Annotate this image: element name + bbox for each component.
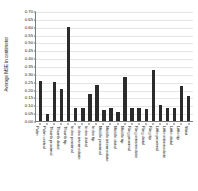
x-axis-tick-mark (174, 123, 175, 125)
bar-slot (150, 12, 157, 121)
x-axis-tick-mark (145, 123, 146, 125)
plot-area (35, 12, 193, 122)
x-axis-tick-mark (167, 123, 168, 125)
x-axis-tick-mark (46, 123, 47, 125)
bar-slot (93, 12, 100, 121)
x-axis-tick-mark (117, 123, 118, 125)
bar-slot (58, 12, 65, 121)
x-axis-tick-mark (39, 123, 40, 125)
x-axis-tick-label: Little proximal (155, 126, 159, 151)
bar[interactable] (116, 112, 119, 121)
bar-slot (185, 12, 192, 121)
bar[interactable] (137, 108, 140, 121)
bar-chart-figure: Average MSE in centimeter 0.700.650.600.… (0, 0, 198, 191)
x-axis-tick-label: Ring intermediate (134, 126, 138, 158)
bar[interactable] (81, 108, 84, 121)
bar-slot (37, 12, 44, 121)
x-axis-tick-label: Little tip (176, 126, 180, 140)
bar-slot (65, 12, 72, 121)
bar[interactable] (152, 70, 155, 121)
bar[interactable] (187, 96, 190, 121)
bar-slot (157, 12, 164, 121)
bar[interactable] (60, 89, 63, 121)
x-axis-tick-label: Index tip (91, 126, 95, 141)
x-axis-tick-label: Ring tip (148, 126, 152, 140)
x-axis-tick-mark (181, 123, 182, 125)
x-axis-tick-label: Ring distal (141, 126, 145, 145)
bar[interactable] (166, 108, 169, 121)
bar-slot (44, 12, 51, 121)
bar-slot (79, 12, 86, 121)
y-axis-tick-label: 0.60 (25, 26, 33, 30)
bar-slot (129, 12, 136, 121)
x-tick-slot: Wrist (185, 123, 192, 191)
x-axis-tick-label: Palm central (41, 126, 45, 149)
x-axis-tick-label: Wrist (183, 126, 187, 135)
x-axis-tick-label: Middle intermediate (105, 126, 109, 162)
bar-series (36, 12, 193, 121)
y-axis-tick-label: 0.25 (25, 81, 33, 85)
bar[interactable] (123, 77, 126, 121)
bar[interactable] (159, 105, 162, 122)
bar-slot (72, 12, 79, 121)
y-axis-tick-label: 0.70 (25, 10, 33, 14)
y-axis-tick-labels: 0.700.650.600.550.500.450.400.350.300.25… (12, 12, 34, 122)
bar[interactable] (46, 114, 49, 121)
x-axis-tick-label: Index proximal (70, 126, 74, 153)
x-axis-tick-mark (153, 123, 154, 125)
x-axis-tick-labels: PalmPalm centralThumb proximalThumb dist… (35, 123, 193, 191)
bar[interactable] (67, 27, 70, 121)
y-axis-tick-label: 0.45 (25, 49, 33, 53)
bar[interactable] (173, 108, 176, 121)
y-axis-tick-label: 0.40 (25, 57, 33, 61)
y-axis-tick-label: 0.15 (25, 96, 33, 100)
x-axis-tick-mark (160, 123, 161, 125)
bar-slot (86, 12, 93, 121)
y-axis-tick-label: 0.65 (25, 18, 33, 22)
bar-slot (164, 12, 171, 121)
x-axis-tick-label: Thumb tip (63, 126, 67, 144)
x-axis-tick-mark (188, 123, 189, 125)
x-axis-tick-label: Palm (34, 126, 38, 135)
y-axis-tick-label: 0.35 (25, 65, 33, 69)
bar[interactable] (53, 82, 56, 121)
bar[interactable] (39, 81, 42, 121)
y-axis-tick-label: 0.10 (25, 104, 33, 108)
x-axis-tick-label: Little intermediate (162, 126, 166, 158)
x-axis-tick-mark (96, 123, 97, 125)
x-axis-tick-label: Thumb proximal (48, 126, 52, 155)
bar-slot (115, 12, 122, 121)
x-axis-tick-label: Index intermediate (77, 126, 81, 160)
bar-slot (122, 12, 129, 121)
x-axis-tick-mark (89, 123, 90, 125)
bar-slot (143, 12, 150, 121)
x-axis-tick-label: Middle proximal (98, 126, 102, 155)
x-axis-tick-label: Middle distal (112, 126, 116, 149)
bar-slot (171, 12, 178, 121)
bar[interactable] (95, 85, 98, 121)
bar[interactable] (109, 108, 112, 121)
x-axis-tick-mark (67, 123, 68, 125)
x-axis-tick-mark (110, 123, 111, 125)
x-axis-tick-mark (124, 123, 125, 125)
bar[interactable] (74, 108, 77, 121)
bar-slot (136, 12, 143, 121)
bar-slot (107, 12, 114, 121)
bar[interactable] (145, 109, 148, 121)
bar[interactable] (88, 94, 91, 122)
x-axis-tick-label: Middle tip (119, 126, 123, 143)
x-axis-tick-label: Ring proximal (126, 126, 130, 151)
y-axis-title-text: Average MSE in centimeter (5, 37, 10, 92)
bar-slot (51, 12, 58, 121)
bar[interactable] (130, 108, 133, 121)
y-axis-tick-label: 0.05 (25, 112, 33, 116)
bar-slot (178, 12, 185, 121)
y-axis-tick-label: 0.55 (25, 33, 33, 37)
y-axis-tick-label: 0.30 (25, 73, 33, 77)
bar[interactable] (180, 86, 183, 121)
x-axis-tick-mark (103, 123, 104, 125)
x-axis-tick-mark (82, 123, 83, 125)
bar[interactable] (102, 110, 105, 121)
x-axis-tick-label: Index distal (84, 126, 88, 147)
bar-slot (100, 12, 107, 121)
